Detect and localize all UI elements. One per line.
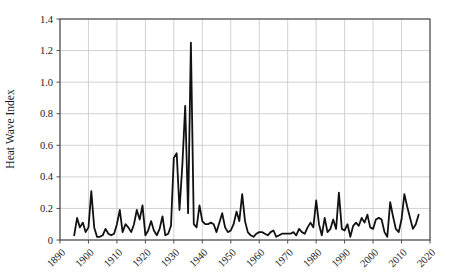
grid-layer bbox=[60, 19, 430, 240]
plot-border bbox=[60, 19, 430, 240]
x-tick-label: 1960 bbox=[244, 247, 267, 270]
y-tick-label: 0.2 bbox=[40, 203, 53, 214]
y-tick-label: 0.6 bbox=[40, 140, 53, 151]
y-tick-label: 1.4 bbox=[40, 14, 54, 25]
x-tick-label: 1940 bbox=[187, 247, 210, 270]
x-tick-label: 2000 bbox=[358, 247, 381, 270]
y-tick-label: 0.4 bbox=[40, 171, 54, 182]
x-tick-label: 1930 bbox=[159, 247, 182, 270]
y-tick-label: 0.8 bbox=[40, 108, 53, 119]
chart-canvas: 1890190019101920193019401950196019701980… bbox=[0, 0, 455, 280]
x-tick-label: 2010 bbox=[386, 247, 409, 270]
tick-label-layer: 1890190019101920193019401950196019701980… bbox=[40, 14, 438, 270]
y-axis-label: Heat Wave Index bbox=[4, 89, 16, 169]
heat-wave-index-line bbox=[74, 43, 418, 237]
x-tick-label: 1990 bbox=[329, 247, 352, 270]
data-line-layer bbox=[74, 43, 418, 237]
x-tick-label: 1920 bbox=[130, 247, 153, 270]
x-tick-label: 1970 bbox=[272, 247, 295, 270]
y-tick-label: 0 bbox=[48, 235, 53, 246]
x-tick-label: 1890 bbox=[45, 247, 68, 270]
x-tick-label: 1950 bbox=[216, 247, 239, 270]
x-tick-label: 1910 bbox=[102, 247, 125, 270]
x-tick-label: 2020 bbox=[415, 247, 438, 270]
heat-wave-index-chart: 1890190019101920193019401950196019701980… bbox=[0, 0, 455, 280]
x-tick-label: 1980 bbox=[301, 247, 324, 270]
y-tick-label: 1.2 bbox=[40, 45, 53, 56]
y-tick-label: 1.0 bbox=[40, 77, 53, 88]
x-tick-label: 1900 bbox=[73, 247, 96, 270]
